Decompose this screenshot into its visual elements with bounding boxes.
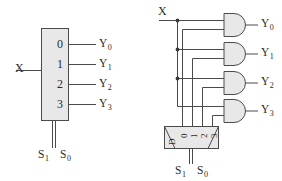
gate-output-y1-base: Y [261, 46, 269, 58]
gate-output-y0-subscript: 0 [270, 23, 274, 32]
block-output-y3-base: Y [99, 97, 107, 109]
block-output-y2-base: Y [99, 77, 107, 89]
block-port-number-1: 1 [57, 58, 63, 70]
block-output-y0-subscript: 0 [108, 43, 112, 52]
block-output-label-y3: Y3 [99, 98, 111, 110]
block-select-s1-base: S [38, 148, 44, 160]
block-port-number-0: 0 [57, 38, 63, 50]
block-select-label-s0: S0 [60, 149, 70, 161]
gate-select-s0-base: S [197, 164, 203, 176]
and-gate-0-body [224, 14, 245, 37]
gate-select-s0-subscript: 0 [204, 170, 208, 179]
decoder-output-number-1: 1 [190, 134, 199, 139]
gate-output-y2-subscript: 2 [270, 81, 274, 90]
demultiplexer-figure: X 0 1 2 3 Y0 Y1 Y2 Y3 S1 S0 X Y0 Y1 Y2 Y… [0, 0, 282, 181]
decoder-output-number-2: 2 [200, 134, 209, 139]
gate-output-label-y0: Y0 [261, 18, 273, 30]
gate-output-y2-base: Y [261, 75, 269, 87]
gate-select-s1-base: S [175, 164, 181, 176]
block-output-y1-base: Y [99, 57, 107, 69]
block-port-number-3: 3 [57, 98, 63, 110]
gate-select-label-s1: S1 [175, 165, 185, 177]
gate-select-s1-subscript: 1 [182, 170, 186, 179]
block-select-label-s1: S1 [38, 149, 48, 161]
gate-output-label-y3: Y3 [261, 104, 273, 116]
demux-block-body [42, 29, 69, 121]
block-output-label-y2: Y2 [99, 78, 111, 90]
block-output-label-y0: Y0 [99, 38, 111, 50]
and-gate-1-body [224, 43, 246, 66]
gate-output-y0-base: Y [261, 17, 269, 29]
block-select-s0-base: S [60, 148, 66, 160]
gate-output-label-y2: Y2 [261, 76, 273, 88]
gate-output-y3-base: Y [261, 103, 269, 115]
gate-output-label-y1: Y1 [261, 47, 273, 59]
block-select-s1-subscript: 1 [45, 154, 49, 163]
block-output-y0-base: Y [99, 37, 107, 49]
gate-select-label-s0: S0 [197, 165, 207, 177]
and-gate-2-body [224, 72, 245, 95]
and-gate-3-body [224, 100, 246, 123]
gate-output-y1-subscript: 1 [270, 52, 274, 61]
decoder-enable-label-d: D [168, 139, 177, 146]
junction-dot-x-1 [176, 48, 180, 52]
block-output-y1-subscript: 1 [108, 63, 112, 72]
junction-dot-x-2 [176, 77, 180, 81]
decoder-out-3-wire [213, 116, 225, 128]
block-symbol-group [16, 29, 96, 149]
block-output-y3-subscript: 3 [108, 103, 112, 112]
gate-output-y3-subscript: 3 [270, 109, 274, 118]
block-input-label-x: X [15, 62, 24, 74]
junction-dot-x-0 [176, 19, 180, 23]
decoder-out-1-wire [193, 59, 225, 128]
decoder-output-number-0: 0 [180, 134, 189, 139]
block-port-number-2: 2 [57, 78, 63, 90]
block-output-label-y1: Y1 [99, 58, 111, 70]
gate-input-label-x: X [158, 5, 167, 17]
decoder-output-number-3: 3 [210, 134, 219, 139]
decoder-out-2-wire [203, 88, 225, 128]
block-select-s0-subscript: 0 [67, 154, 71, 163]
block-output-y2-subscript: 2 [108, 83, 112, 92]
